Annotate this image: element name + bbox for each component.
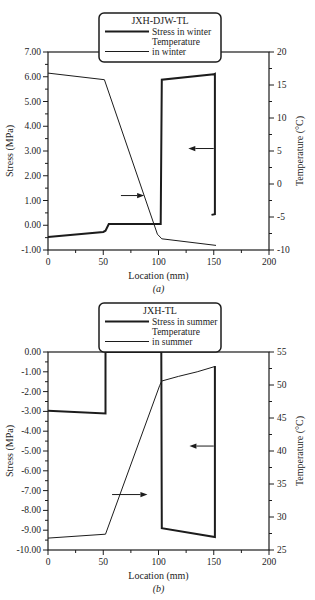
right-tick-label: 20 bbox=[277, 47, 287, 57]
left-tick-label: -1.00 bbox=[21, 245, 41, 255]
x-tick-label: 150 bbox=[207, 557, 222, 567]
left-tick-label: -10.00 bbox=[16, 545, 41, 555]
left-tick-label: -9.00 bbox=[21, 525, 41, 535]
legend-entry-label: Stress in winter bbox=[152, 27, 212, 37]
right-tick-label: 25 bbox=[277, 545, 287, 555]
axis-tick-labels: 050100150200-10.00-9.00-8.00-7.00-6.00-5… bbox=[16, 347, 286, 567]
left-tick-label: -6.00 bbox=[21, 466, 41, 476]
legend-title: JXH-DJW-TL bbox=[131, 15, 188, 26]
left-tick-label: -7.00 bbox=[21, 486, 41, 496]
x-tick-label: 200 bbox=[262, 557, 277, 567]
right-axis-ticks bbox=[269, 352, 274, 550]
chart-caption: (b) bbox=[153, 583, 165, 595]
left-tick-label: 0.00 bbox=[24, 347, 41, 357]
left-tick-label: 0.00 bbox=[24, 220, 41, 230]
series-stress-in-summer bbox=[48, 352, 215, 537]
x-tick-label: 150 bbox=[207, 257, 222, 267]
legend-entry-label: Temperature bbox=[152, 327, 200, 337]
right-tick-label: 55 bbox=[277, 347, 287, 357]
right-tick-label: -5 bbox=[277, 212, 285, 222]
right-axis-label: Temperature (°C) bbox=[294, 416, 306, 486]
left-tick-label: 6.00 bbox=[24, 72, 41, 82]
winter-chart-figure: 050100150200-1.000.001.002.003.004.005.0… bbox=[0, 0, 315, 300]
x-axis-ticks bbox=[48, 250, 269, 255]
left-tick-label: -3.00 bbox=[21, 406, 41, 416]
legend-title: JXH-TL bbox=[143, 305, 177, 316]
summer-chart: 050100150200-10.00-9.00-8.00-7.00-6.00-5… bbox=[0, 300, 315, 600]
left-tick-label: -4.00 bbox=[21, 426, 41, 436]
plot-frame bbox=[48, 352, 269, 550]
x-tick-label: 200 bbox=[262, 257, 277, 267]
winter-chart: 050100150200-1.000.001.002.003.004.005.0… bbox=[0, 0, 315, 300]
axis-tick-labels: 050100150200-1.000.001.002.003.004.005.0… bbox=[21, 47, 290, 267]
plot-frame bbox=[48, 52, 269, 250]
left-axis-label: Stress (MPa) bbox=[4, 425, 16, 477]
left-tick-label: -8.00 bbox=[21, 505, 41, 515]
left-tick-label: 1.00 bbox=[24, 196, 41, 206]
legend: JXH-TLStress in summerTemperaturein summ… bbox=[99, 303, 221, 352]
axis-pointer-arrow-right-axis bbox=[121, 193, 144, 198]
series-temperature-in-summer bbox=[48, 367, 215, 539]
chart-caption: (a) bbox=[153, 283, 165, 295]
right-tick-label: 0 bbox=[277, 179, 282, 189]
right-tick-label: 10 bbox=[277, 113, 287, 123]
arrow-head-icon bbox=[189, 443, 196, 448]
right-tick-label: 40 bbox=[277, 446, 287, 456]
legend-entry-label: in summer bbox=[152, 337, 193, 347]
legend: JXH-DJW-TLStress in winterTemperaturein … bbox=[99, 13, 221, 62]
right-axis-label: Temperature (°C) bbox=[294, 116, 306, 186]
legend-entry-label: Stress in summer bbox=[152, 317, 218, 327]
right-axis-ticks bbox=[269, 52, 274, 250]
left-tick-label: 2.00 bbox=[24, 171, 41, 181]
left-tick-label: 7.00 bbox=[24, 47, 41, 57]
axis-pointer-arrow-right-axis bbox=[112, 492, 147, 497]
right-tick-label: 45 bbox=[277, 413, 287, 423]
x-tick-label: 100 bbox=[151, 557, 166, 567]
right-tick-label: 15 bbox=[277, 80, 287, 90]
left-tick-label: -1.00 bbox=[21, 367, 41, 377]
right-tick-label: -10 bbox=[277, 245, 290, 255]
left-tick-label: 5.00 bbox=[24, 97, 41, 107]
right-tick-label: 30 bbox=[277, 512, 287, 522]
right-tick-label: 50 bbox=[277, 380, 287, 390]
left-axis-ticks bbox=[43, 52, 48, 250]
left-tick-label: 4.00 bbox=[24, 121, 41, 131]
axis-pointer-arrow-left-axis bbox=[189, 443, 213, 448]
series-stress-in-winter bbox=[48, 74, 215, 237]
axis-pointer-arrow-left-axis bbox=[188, 146, 213, 151]
summer-chart-figure: 050100150200-10.00-9.00-8.00-7.00-6.00-5… bbox=[0, 300, 315, 600]
left-tick-label: -2.00 bbox=[21, 387, 41, 397]
right-tick-label: 35 bbox=[277, 479, 287, 489]
x-axis-ticks bbox=[48, 550, 269, 555]
arrow-head-icon bbox=[140, 492, 147, 497]
arrow-head-icon bbox=[188, 146, 195, 151]
legend-entry-label: in winter bbox=[152, 47, 187, 57]
left-tick-label: 3.00 bbox=[24, 146, 41, 156]
x-tick-label: 0 bbox=[46, 257, 51, 267]
x-tick-label: 50 bbox=[99, 557, 109, 567]
x-tick-label: 100 bbox=[151, 257, 166, 267]
series-temperature-in-winter bbox=[48, 73, 216, 245]
left-axis-label: Stress (MPa) bbox=[4, 125, 16, 177]
right-tick-label: 5 bbox=[277, 146, 282, 156]
x-axis-label: Location (mm) bbox=[128, 270, 188, 282]
legend-entry-label: Temperature bbox=[152, 37, 200, 47]
x-axis-label: Location (mm) bbox=[128, 570, 188, 582]
left-tick-label: -5.00 bbox=[21, 446, 41, 456]
x-tick-label: 0 bbox=[46, 557, 51, 567]
left-axis-ticks bbox=[43, 352, 48, 550]
x-tick-label: 50 bbox=[99, 257, 109, 267]
